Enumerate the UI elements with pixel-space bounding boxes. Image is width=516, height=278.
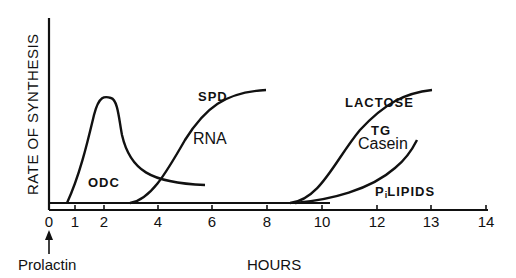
x-tick-4: 4 — [154, 214, 162, 229]
y-axis-label: RATE OF SYNTHESIS — [25, 33, 40, 195]
odc-label: ODC — [88, 176, 120, 189]
prolactin-label: Prolactin — [18, 257, 76, 272]
pi-label: P — [375, 184, 385, 199]
spd-label: SPD — [198, 90, 228, 103]
x-axis-label: HOURS — [247, 257, 301, 272]
x-tick-8: 8 — [263, 214, 271, 229]
x-tick-14: 14 — [478, 214, 495, 229]
x-tick-0: 0 — [45, 214, 53, 229]
lipids-label: LIPIDS — [387, 184, 435, 199]
chart-plot — [0, 0, 516, 278]
x-tick-13: 13 — [423, 214, 440, 229]
prolactin-arrow-icon — [45, 230, 53, 254]
x-tick-1: 1 — [71, 214, 79, 229]
x-tick-12: 12 — [369, 214, 386, 229]
rna-label: RNA — [193, 131, 227, 147]
lactose-label: LACTOSE — [345, 96, 414, 109]
x-tick-2: 2 — [100, 214, 108, 229]
x-tick-10: 10 — [314, 214, 331, 229]
x-tick-6: 6 — [208, 214, 216, 229]
casein-label: Casein — [358, 136, 408, 152]
pi-lipids-label: PiLIPIDS — [375, 185, 435, 200]
